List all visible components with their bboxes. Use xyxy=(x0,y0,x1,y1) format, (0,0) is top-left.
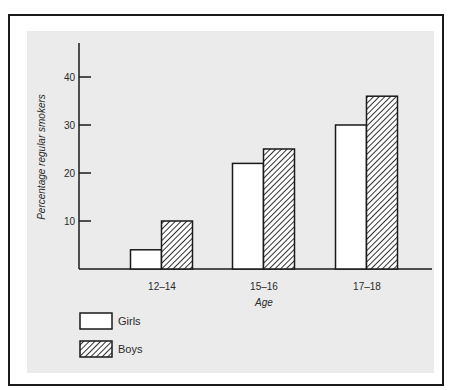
y-tick-label: 40 xyxy=(64,72,76,83)
labels: 1020304012–1415–1617–18 xyxy=(64,72,381,293)
x-axis-title: Age xyxy=(254,297,273,308)
x-tick-label: 12–14 xyxy=(148,281,176,292)
y-tick-label: 10 xyxy=(64,216,76,227)
legend-swatch-boys xyxy=(80,341,112,357)
y-tick-label: 30 xyxy=(64,120,76,131)
legend-label-boys: Boys xyxy=(118,343,143,355)
y-tick-label: 20 xyxy=(64,168,76,179)
legend: GirlsBoys xyxy=(80,313,143,357)
bar-boys xyxy=(367,96,398,269)
bars xyxy=(131,96,398,269)
bar-chart: 1020304012–1415–1617–18 Percentage regul… xyxy=(0,0,453,390)
bar-girls xyxy=(336,125,367,269)
legend-swatch-girls xyxy=(80,313,112,329)
bar-girls xyxy=(131,250,162,269)
x-tick-label: 15–16 xyxy=(250,281,278,292)
x-tick-label: 17–18 xyxy=(353,281,381,292)
legend-label-girls: Girls xyxy=(118,315,141,327)
bar-boys xyxy=(264,149,295,269)
bar-boys xyxy=(162,221,193,269)
y-axis-title: Percentage regular smokers xyxy=(36,94,47,220)
bar-girls xyxy=(233,163,264,269)
